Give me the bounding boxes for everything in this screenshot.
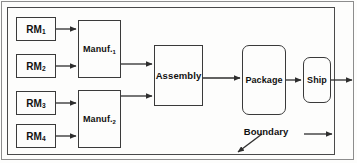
node-label-subscript-manuf2: 2 xyxy=(113,119,116,125)
node-rm3[interactable]: RM3 xyxy=(16,91,56,115)
node-rm2[interactable]: RM2 xyxy=(16,54,56,78)
node-manuf2[interactable]: Manuf.2 xyxy=(78,90,121,148)
node-label-manuf2: Manuf.2 xyxy=(83,114,116,124)
node-rm1[interactable]: RM1 xyxy=(16,17,56,41)
node-label-rm3: RM3 xyxy=(26,98,46,109)
boundary-label: Boundary xyxy=(244,126,288,137)
diagram-canvas: RM1RM2RM3RM4Manuf.1Manuf.2AssemblyPackag… xyxy=(0,0,357,163)
node-package[interactable]: Package xyxy=(242,45,286,115)
node-label-subscript-manuf1: 1 xyxy=(113,49,116,55)
node-label-subscript-rm1: 1 xyxy=(42,28,46,35)
node-manuf1[interactable]: Manuf.1 xyxy=(78,20,121,78)
node-label-manuf1: Manuf.1 xyxy=(83,44,116,54)
node-label-package: Package xyxy=(245,75,282,85)
node-rm4[interactable]: RM4 xyxy=(16,124,56,148)
node-label-assembly: Assembly xyxy=(156,70,202,81)
node-ship[interactable]: Ship xyxy=(303,57,331,103)
node-label-rm4: RM4 xyxy=(26,131,46,142)
node-label-rm1: RM1 xyxy=(26,24,46,35)
node-label-ship: Ship xyxy=(307,75,327,85)
node-label-subscript-rm3: 3 xyxy=(42,102,46,109)
node-label-subscript-rm4: 4 xyxy=(42,135,46,142)
node-assembly[interactable]: Assembly xyxy=(154,45,203,106)
node-label-rm2: RM2 xyxy=(26,61,46,72)
node-label-subscript-rm2: 2 xyxy=(42,65,46,72)
